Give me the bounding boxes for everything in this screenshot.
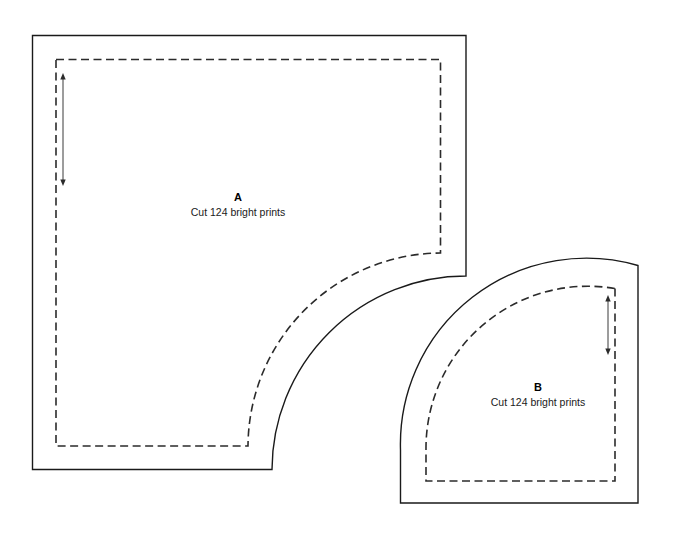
piece-b-note: Cut 124 bright prints xyxy=(491,396,586,408)
pattern-canvas: A Cut 124 bright prints B Cut 124 bright… xyxy=(0,0,675,536)
piece-a-group: A Cut 124 bright prints xyxy=(33,36,467,470)
piece-b-group: B Cut 124 bright prints xyxy=(400,258,638,503)
piece-a-sew-line xyxy=(56,60,441,447)
piece-b-grain-arrow xyxy=(605,295,610,355)
piece-b-grain-arrowhead-up xyxy=(605,295,610,302)
piece-a-note: Cut 124 bright prints xyxy=(191,206,286,218)
piece-a-letter: A xyxy=(234,191,242,203)
piece-a-grain-arrow xyxy=(60,73,65,186)
piece-b-grain-arrowhead-down xyxy=(605,349,610,356)
piece-a-grain-arrowhead-up xyxy=(60,73,65,80)
piece-a-cut-line xyxy=(33,36,467,470)
piece-b-sew-line xyxy=(426,286,615,481)
piece-b-letter: B xyxy=(534,381,542,393)
piece-a-grain-arrowhead-down xyxy=(60,180,65,187)
pattern-drawing: A Cut 124 bright prints B Cut 124 bright… xyxy=(0,0,675,536)
piece-b-cut-line xyxy=(400,258,638,503)
